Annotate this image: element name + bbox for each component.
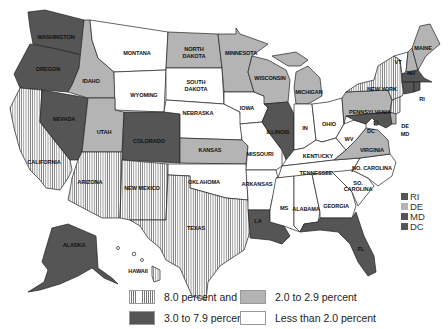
legend-item-mid: 2.0 to 2.9 percent	[240, 290, 357, 304]
legend-label: 3.0 to 7.9 percent	[164, 312, 246, 324]
legend-swatch-mid	[240, 290, 266, 304]
legend-item-dark: 3.0 to 7.9 percent	[129, 311, 246, 325]
legend-item-light: Less than 2.0 percent	[240, 311, 376, 325]
legend-label: Less than 2.0 percent	[275, 312, 376, 324]
swatch-dark	[401, 193, 408, 200]
small-state-label: DC	[410, 221, 424, 232]
legend: 8.0 percent and over 3.0 to 7.9 percent …	[0, 0, 448, 329]
small-state-legend-dc: DC	[401, 221, 424, 232]
legend-swatch-light	[240, 311, 266, 325]
swatch-dark	[401, 213, 408, 220]
legend-swatch-dark	[129, 311, 155, 325]
swatch-dark	[401, 223, 408, 230]
legend-swatch-hatch	[129, 290, 155, 304]
swatch-mid	[401, 203, 408, 210]
legend-label: 2.0 to 2.9 percent	[275, 291, 357, 303]
